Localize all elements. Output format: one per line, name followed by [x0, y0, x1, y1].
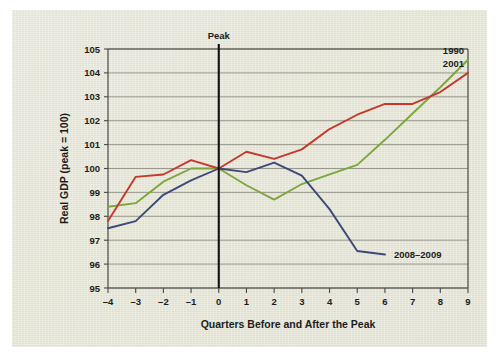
series-label-2008-2009: 2008–2009: [394, 249, 442, 260]
ytick-label-95: 95: [89, 283, 100, 294]
ytick-label-97: 97: [89, 235, 100, 246]
ytick-label-103: 103: [84, 91, 100, 102]
series-label-2001: 2001: [443, 58, 465, 69]
series-label-1990: 1990: [443, 45, 464, 56]
ytick-label-101: 101: [84, 139, 101, 150]
ytick-label-100: 100: [84, 163, 100, 174]
chart-panel: 9596979899100101102103104105–4–3–2–10123…: [12, 10, 487, 347]
xtick-label--4: –4: [103, 296, 114, 307]
xtick-label-1: 1: [244, 296, 250, 307]
ytick-label-96: 96: [89, 259, 100, 270]
xtick-label-9: 9: [465, 296, 470, 307]
peak-annotation-label: Peak: [208, 30, 231, 41]
series-line-1990: [108, 60, 468, 207]
chart-figure: 9596979899100101102103104105–4–3–2–10123…: [0, 0, 499, 363]
ytick-label-104: 104: [84, 67, 101, 78]
xtick-label-4: 4: [327, 296, 333, 307]
xtick-label-6: 6: [382, 296, 387, 307]
xtick-label-0: 0: [216, 296, 221, 307]
xtick-label-3: 3: [299, 296, 304, 307]
series-line-2001: [108, 73, 468, 221]
xtick-label--3: –3: [130, 296, 141, 307]
ytick-label-99: 99: [89, 187, 100, 198]
xtick-label-5: 5: [355, 296, 361, 307]
xtick-label--1: –1: [186, 296, 197, 307]
ytick-label-98: 98: [89, 211, 100, 222]
line-chart: 9596979899100101102103104105–4–3–2–10123…: [12, 10, 487, 347]
xtick-label-8: 8: [438, 296, 443, 307]
xtick-label--2: –2: [158, 296, 169, 307]
x-axis-title: Quarters Before and After the Peak: [201, 318, 376, 330]
ytick-label-105: 105: [84, 44, 101, 55]
xtick-label-2: 2: [272, 296, 277, 307]
ytick-label-102: 102: [84, 115, 100, 126]
xtick-label-7: 7: [410, 296, 415, 307]
y-axis-title: Real GDP (peak = 100): [58, 113, 70, 224]
